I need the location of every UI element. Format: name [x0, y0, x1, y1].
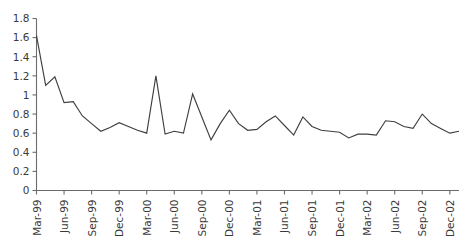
line-chart: 00.20.40.60.811.21.41.61.8 Mar-99Jun-99S… [0, 0, 466, 246]
x-tick-label: Sep-99 [86, 200, 98, 237]
y-tick-label: 1.2 [13, 70, 30, 82]
chart-canvas: 00.20.40.60.811.21.41.61.8 Mar-99Jun-99S… [0, 0, 466, 246]
x-tick-label: Sep-01 [306, 200, 318, 237]
x-tick-label: Sep-02 [416, 200, 428, 237]
x-tick-label: Dec-01 [334, 200, 346, 237]
x-tick-label: Jun-02 [389, 200, 401, 235]
x-tick-label: Mar-00 [141, 200, 153, 236]
y-tick-label: 0 [23, 184, 30, 196]
x-tick-label: Sep-00 [196, 200, 208, 237]
y-tick-label: 0.6 [13, 127, 30, 139]
y-axis-tick-labels: 00.20.40.60.811.21.41.61.8 [13, 12, 30, 196]
y-tick-label: 0.8 [13, 108, 30, 120]
y-tick-label: 1.6 [13, 31, 30, 43]
x-tick-label: Mar-01 [251, 200, 263, 236]
x-tick-label: Mar-02 [361, 200, 373, 236]
x-tick-label: Dec-00 [223, 200, 235, 237]
x-tick-label: Jun-00 [168, 200, 180, 235]
x-tick-label: Dec-99 [113, 200, 125, 237]
x-tick-label: Mar-99 [31, 200, 43, 236]
x-tick-label: Jun-99 [58, 200, 70, 235]
y-tick-label: 1.8 [13, 12, 30, 24]
y-tick-label: 0.4 [13, 146, 30, 158]
x-tick-label: Jun-01 [278, 200, 290, 235]
y-tick-label: 0.2 [13, 165, 30, 177]
y-axis-tick-marks [33, 19, 37, 191]
y-tick-label: 1.4 [13, 51, 30, 63]
x-axis-tick-labels: Mar-99Jun-99Sep-99Dec-99Mar-00Jun-00Sep-… [31, 200, 456, 237]
data-series-line [37, 36, 460, 140]
y-tick-label: 1 [23, 89, 30, 101]
x-tick-label: Dec-02 [444, 200, 456, 237]
x-axis-tick-marks [37, 191, 450, 195]
